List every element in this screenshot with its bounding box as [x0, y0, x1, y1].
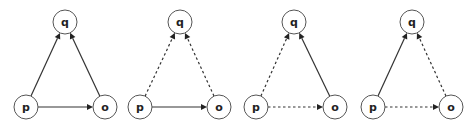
- edge-p-to-q: [145, 33, 175, 96]
- graph-4: qpo: [361, 10, 463, 119]
- edge-o-to-q: [70, 33, 100, 96]
- edge-p-to-q: [378, 33, 407, 96]
- node-label: q: [290, 16, 298, 29]
- node-p: p: [128, 95, 152, 119]
- node-label: o: [331, 101, 339, 114]
- node-label: p: [252, 101, 260, 114]
- arrowhead-icon: [284, 33, 289, 40]
- node-p: p: [14, 95, 38, 119]
- edge-o-to-q: [417, 33, 446, 96]
- dashed-edge-line: [188, 38, 214, 96]
- node-label: o: [101, 101, 109, 114]
- arrowhead-icon: [417, 33, 422, 40]
- node-o: o: [207, 95, 231, 119]
- node-q: q: [400, 10, 424, 34]
- edge-p-to-q: [261, 33, 289, 96]
- node-o: o: [439, 95, 463, 119]
- dashed-edge-line: [145, 38, 172, 96]
- node-p: p: [244, 95, 268, 119]
- edge-p-to-o: [38, 104, 93, 110]
- node-label: q: [176, 16, 184, 29]
- arrowhead-icon: [433, 104, 439, 110]
- edge-o-to-q: [299, 33, 330, 96]
- graph-1: qpo: [14, 10, 117, 119]
- diagram-canvas: qpoqpoqpoqpo: [0, 0, 476, 126]
- edge-p-to-o: [152, 104, 207, 110]
- node-label: p: [22, 101, 30, 114]
- node-label: o: [215, 101, 223, 114]
- graph-3: qpo: [244, 10, 347, 119]
- solid-edge-line: [378, 38, 404, 96]
- edge-p-to-o: [268, 104, 323, 110]
- solid-edge-line: [302, 38, 330, 96]
- solid-edge-line: [31, 38, 57, 96]
- node-label: q: [61, 16, 69, 29]
- graph-2: qpo: [128, 10, 231, 119]
- node-o: o: [323, 95, 347, 119]
- node-label: p: [136, 101, 144, 114]
- solid-edge-line: [73, 38, 100, 96]
- node-q: q: [282, 10, 306, 34]
- arrowhead-icon: [201, 104, 207, 110]
- arrowhead-icon: [87, 104, 93, 110]
- edge-o-to-q: [185, 33, 214, 96]
- arrowhead-icon: [185, 33, 190, 40]
- arrowhead-icon: [317, 104, 323, 110]
- arrowhead-icon: [170, 33, 175, 40]
- node-p: p: [361, 95, 385, 119]
- edge-p-to-o: [385, 104, 439, 110]
- dashed-edge-line: [420, 38, 446, 96]
- node-label: o: [447, 101, 455, 114]
- node-q: q: [168, 10, 192, 34]
- node-label: q: [408, 16, 416, 29]
- node-q: q: [53, 10, 77, 34]
- node-o: o: [93, 95, 117, 119]
- dashed-edge-line: [261, 38, 287, 96]
- node-label: p: [369, 101, 377, 114]
- edge-p-to-q: [31, 33, 60, 96]
